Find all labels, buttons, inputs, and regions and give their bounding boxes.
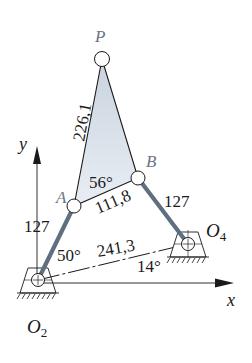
joint-o2 — [32, 274, 45, 287]
joint-a — [67, 199, 81, 213]
angle-coupler: 56° — [89, 173, 113, 192]
y-axis-label: y — [17, 134, 27, 154]
coupler-point-p — [95, 52, 110, 67]
label-b: B — [146, 152, 157, 171]
linkage-diagram: P B A y x O2 O4 226,1 111,8 127 127 241,… — [0, 0, 252, 363]
label-a: A — [55, 188, 67, 207]
label-o4: O4 — [206, 220, 227, 244]
label-p: P — [94, 27, 105, 46]
joint-b — [131, 171, 145, 185]
joint-o4 — [182, 238, 195, 251]
x-axis — [38, 279, 234, 288]
angle-crank: 50° — [57, 246, 81, 265]
x-axis-label: x — [226, 290, 235, 310]
angle-ground: 14° — [137, 257, 161, 276]
rocker-link-o4b — [138, 178, 188, 244]
label-o2: O2 — [27, 316, 47, 340]
y-axis — [33, 146, 41, 280]
dim-o2a: 127 — [24, 217, 50, 236]
dim-o4b: 127 — [164, 192, 190, 211]
dim-o2o4: 241,3 — [95, 236, 136, 261]
